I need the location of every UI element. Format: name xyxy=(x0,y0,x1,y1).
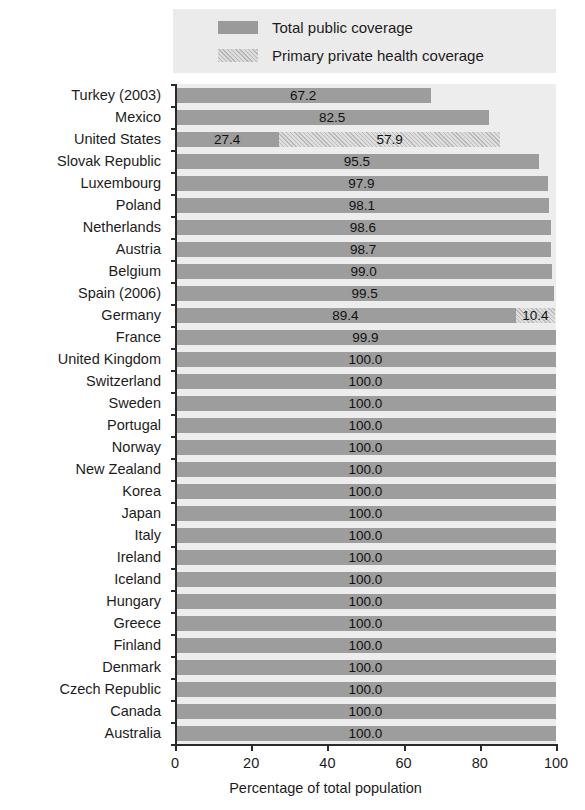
bar-row: Denmark100.0 xyxy=(0,656,585,678)
y-axis-tick xyxy=(171,216,176,218)
bar-row: Belgium99.0 xyxy=(0,260,585,282)
y-axis-tick xyxy=(171,524,176,526)
y-axis-tick xyxy=(171,612,176,614)
bar-value-public: 99.5 xyxy=(175,286,554,301)
bar-row: New Zealand100.0 xyxy=(0,458,585,480)
x-axis-title: Percentage of total population xyxy=(0,780,585,796)
y-axis-tick xyxy=(171,370,176,372)
x-axis-tick xyxy=(556,744,558,751)
bar-row: Greece100.0 xyxy=(0,612,585,634)
bar-value-public: 27.4 xyxy=(175,132,279,147)
country-label: Canada xyxy=(0,700,168,722)
bar-value-public: 99.0 xyxy=(175,264,552,279)
bar-group: 67.2 xyxy=(175,88,556,103)
bar-value-public: 89.4 xyxy=(175,308,516,323)
y-axis-tick xyxy=(171,502,176,504)
bar-row: Canada100.0 xyxy=(0,700,585,722)
country-label: Belgium xyxy=(0,260,168,282)
bar-value-public: 100.0 xyxy=(175,616,556,631)
bar-track: 100.0 xyxy=(168,590,585,612)
bar-group: 100.0 xyxy=(175,484,556,499)
bar-row: Poland98.1 xyxy=(0,194,585,216)
bar-value-public: 100.0 xyxy=(175,374,556,389)
chart-legend: Total public coverage Primary private he… xyxy=(173,9,556,73)
bar-group: 100.0 xyxy=(175,660,556,675)
country-label: Norway xyxy=(0,436,168,458)
y-axis-tick xyxy=(171,348,176,350)
bar-row: Japan100.0 xyxy=(0,502,585,524)
bar-group: 100.0 xyxy=(175,506,556,521)
bar-row: Austria98.7 xyxy=(0,238,585,260)
bar-group: 100.0 xyxy=(175,374,556,389)
bar-group: 97.9 xyxy=(175,176,556,191)
bar-track: 100.0 xyxy=(168,612,585,634)
bar-value-public: 100.0 xyxy=(175,440,556,455)
bar-track: 97.9 xyxy=(168,172,585,194)
country-label: New Zealand xyxy=(0,458,168,480)
bar-value-public: 100.0 xyxy=(175,550,556,565)
x-axis-line: 020406080100 xyxy=(175,744,557,746)
country-label: Luxembourg xyxy=(0,172,168,194)
bar-row: United States27.457.9 xyxy=(0,128,585,150)
legend-item-total-public-coverage: Total public coverage xyxy=(218,13,556,41)
bar-row: Finland100.0 xyxy=(0,634,585,656)
chart-plot-area: Turkey (2003)67.2Mexico82.5United States… xyxy=(0,84,585,744)
bar-track: 27.457.9 xyxy=(168,128,585,150)
bar-row: Hungary100.0 xyxy=(0,590,585,612)
bar-track: 100.0 xyxy=(168,480,585,502)
bar-rows: Turkey (2003)67.2Mexico82.5United States… xyxy=(0,84,585,744)
country-label: United Kingdom xyxy=(0,348,168,370)
bar-group: 100.0 xyxy=(175,638,556,653)
y-axis-tick xyxy=(171,150,176,152)
legend-swatch-total-public-coverage xyxy=(218,21,258,34)
y-axis-tick xyxy=(171,414,176,416)
bar-group: 100.0 xyxy=(175,616,556,631)
bar-value-public: 100.0 xyxy=(175,418,556,433)
country-label: Sweden xyxy=(0,392,168,414)
x-axis-tick-label: 20 xyxy=(243,756,259,771)
x-axis-tick xyxy=(175,744,177,751)
bar-track: 100.0 xyxy=(168,634,585,656)
y-axis-tick xyxy=(171,480,176,482)
bar-track: 100.0 xyxy=(168,370,585,392)
bar-row: Turkey (2003)67.2 xyxy=(0,84,585,106)
y-axis-tick xyxy=(171,700,176,702)
bar-group: 100.0 xyxy=(175,462,556,477)
bar-track: 98.1 xyxy=(168,194,585,216)
bar-track: 89.410.4 xyxy=(168,304,585,326)
y-axis-tick xyxy=(171,722,176,724)
bar-row: Portugal100.0 xyxy=(0,414,585,436)
bar-group: 100.0 xyxy=(175,396,556,411)
legend-label-primary-private-health-coverage: Primary private health coverage xyxy=(272,48,484,63)
bar-row: Slovak Republic95.5 xyxy=(0,150,585,172)
bar-value-public: 95.5 xyxy=(175,154,539,169)
country-label: France xyxy=(0,326,168,348)
bar-group: 100.0 xyxy=(175,726,556,741)
y-axis-tick xyxy=(171,238,176,240)
country-label: Turkey (2003) xyxy=(0,84,168,106)
bar-value-public: 100.0 xyxy=(175,704,556,719)
bar-group: 99.9 xyxy=(175,330,556,345)
bar-value-public: 100.0 xyxy=(175,396,556,411)
bar-row: Mexico82.5 xyxy=(0,106,585,128)
bar-track: 67.2 xyxy=(168,84,585,106)
country-label: Finland xyxy=(0,634,168,656)
bar-track: 100.0 xyxy=(168,414,585,436)
bar-group: 99.0 xyxy=(175,264,556,279)
bar-track: 98.6 xyxy=(168,216,585,238)
bar-group: 100.0 xyxy=(175,550,556,565)
country-label: Japan xyxy=(0,502,168,524)
x-axis-tick-label: 80 xyxy=(472,756,488,771)
bar-row: Germany89.410.4 xyxy=(0,304,585,326)
bar-value-public: 98.1 xyxy=(175,198,549,213)
country-label: Spain (2006) xyxy=(0,282,168,304)
bar-value-public: 97.9 xyxy=(175,176,548,191)
y-axis-tick xyxy=(171,656,176,658)
country-label: Ireland xyxy=(0,546,168,568)
bar-value-public: 67.2 xyxy=(175,88,431,103)
bar-group: 98.7 xyxy=(175,242,556,257)
x-axis-tick xyxy=(480,744,482,751)
bar-track: 99.5 xyxy=(168,282,585,304)
bar-track: 82.5 xyxy=(168,106,585,128)
bar-track: 100.0 xyxy=(168,700,585,722)
